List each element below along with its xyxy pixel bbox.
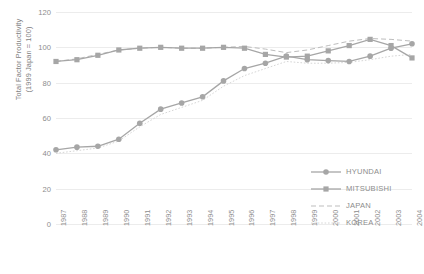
legend-key-icon: [311, 200, 341, 212]
legend-item-mitsubishi[interactable]: MITSUBISHI: [311, 180, 419, 197]
legend-item-label: KOREA: [346, 218, 374, 227]
y-axis-tick-label: 80: [43, 78, 51, 87]
data-point-marker: [200, 46, 205, 51]
x-axis-tick-label: 1991: [143, 210, 152, 226]
data-point-marker: [263, 60, 269, 66]
legend-item-label: JAPAN: [346, 201, 371, 210]
data-point-marker: [95, 143, 101, 149]
legend-item-label: HYUNDAI: [346, 167, 382, 176]
data-point-marker: [179, 100, 185, 106]
data-point-marker: [284, 53, 290, 59]
legend-key-icon: [311, 166, 341, 178]
series-line-korea: [56, 54, 412, 153]
data-point-marker: [53, 59, 58, 64]
x-axis-tick-label: 1998: [289, 210, 298, 226]
data-point-marker: [304, 57, 310, 63]
series-line-japan: [56, 39, 412, 62]
data-point-marker: [221, 45, 226, 50]
data-point-marker: [242, 66, 248, 72]
y-axis-tick-label: 120: [38, 8, 51, 17]
x-axis-tick-label: 1989: [101, 210, 110, 226]
data-point-marker: [221, 78, 227, 84]
legend-item-label: MITSUBISHI: [346, 184, 391, 193]
data-point-marker: [137, 46, 142, 51]
data-point-marker: [179, 46, 184, 51]
data-point-marker: [116, 136, 122, 142]
x-axis-tick-label: 1993: [185, 210, 194, 226]
data-point-marker: [200, 94, 206, 100]
legend-key-icon: [311, 217, 341, 229]
data-point-marker: [53, 147, 59, 153]
data-point-marker: [409, 41, 415, 47]
chart-legend: HYUNDAIMITSUBISHIJAPANKOREA: [311, 163, 419, 231]
legend-item-japan[interactable]: JAPAN: [311, 197, 419, 214]
data-point-marker: [388, 45, 394, 51]
data-point-marker: [137, 121, 143, 127]
y-axis-tick-label: 0: [47, 220, 51, 229]
series-line-mitsubishi: [56, 39, 412, 61]
legend-key-icon: [311, 183, 341, 195]
x-axis-tick-label: 1987: [59, 210, 68, 226]
y-axis-tick-label: 40: [43, 149, 51, 158]
y-axis-tick-label: 60: [43, 114, 51, 123]
x-axis-tick-label: 1994: [206, 210, 215, 226]
x-axis-tick-label: 1992: [164, 210, 173, 226]
data-point-marker: [158, 45, 163, 50]
data-point-marker: [409, 55, 414, 60]
series-line-hyundai: [56, 44, 412, 150]
legend-item-korea[interactable]: KOREA: [311, 214, 419, 231]
x-axis-tick-label: 1988: [80, 210, 89, 226]
data-point-marker: [74, 144, 80, 150]
x-axis-tick-label: 1990: [122, 210, 131, 226]
y-axis-tick-label: 100: [38, 43, 51, 52]
data-point-marker: [95, 53, 100, 58]
data-point-marker: [326, 48, 331, 53]
data-point-marker: [346, 59, 352, 65]
data-point-marker: [325, 58, 331, 64]
data-point-marker: [347, 43, 352, 48]
data-point-marker: [367, 53, 373, 59]
x-axis-tick-label: 1996: [247, 210, 256, 226]
data-point-marker: [116, 47, 121, 52]
x-axis-labels: 1987198819891990199119921993199419951996…: [56, 226, 412, 272]
y-axis-title: Total Factor Productivity (1999 Japan = …: [14, 0, 33, 145]
legend-item-hyundai[interactable]: HYUNDAI: [311, 163, 419, 180]
x-axis-tick-label: 1997: [268, 210, 277, 226]
data-point-marker: [263, 52, 268, 57]
x-axis-tick-label: 1995: [227, 210, 236, 226]
y-axis-tick-label: 20: [43, 184, 51, 193]
data-point-marker: [74, 57, 79, 62]
data-point-marker: [242, 46, 247, 51]
data-point-marker: [158, 106, 164, 112]
data-point-marker: [368, 37, 373, 42]
